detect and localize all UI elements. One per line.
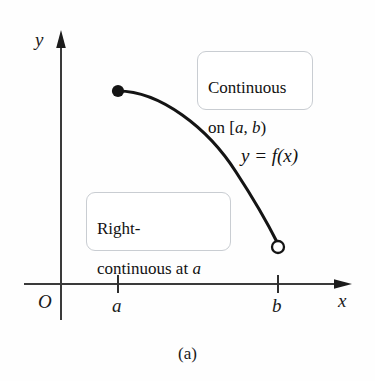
callout-2-line2-prefix: continuous at	[97, 259, 192, 278]
y-axis-arrowhead	[56, 30, 66, 48]
open-endpoint-circle	[272, 241, 284, 253]
x-axis-arrowhead	[334, 279, 352, 289]
callout-continuous-on-interval: Continuous on [a, b)	[197, 51, 313, 110]
callout-1-line1: Continuous	[208, 78, 286, 97]
x-axis-label: x	[338, 291, 346, 310]
x-tick-label-b: b	[272, 296, 282, 315]
callout-2-var-a: a	[192, 259, 201, 278]
callout-right-continuous-at-a: Right- continuous at a	[86, 192, 231, 251]
callout-1-line2-suffix: )	[260, 118, 266, 137]
closed-endpoint-dot	[112, 85, 124, 97]
origin-label: O	[38, 292, 52, 311]
graph-canvas	[0, 0, 375, 381]
function-label: y = f(x)	[241, 146, 298, 165]
callout-2-line1: Right-	[97, 219, 140, 238]
figure-caption: (a)	[0, 345, 375, 362]
x-tick-label-a: a	[112, 296, 122, 315]
callout-1-line2-prefix: on [	[208, 118, 235, 137]
figure-container: y x O a b y = f(x) Continuous on [a, b) …	[0, 0, 375, 381]
callout-1-line2-mid: ,	[243, 118, 252, 137]
y-axis-label: y	[35, 30, 43, 49]
